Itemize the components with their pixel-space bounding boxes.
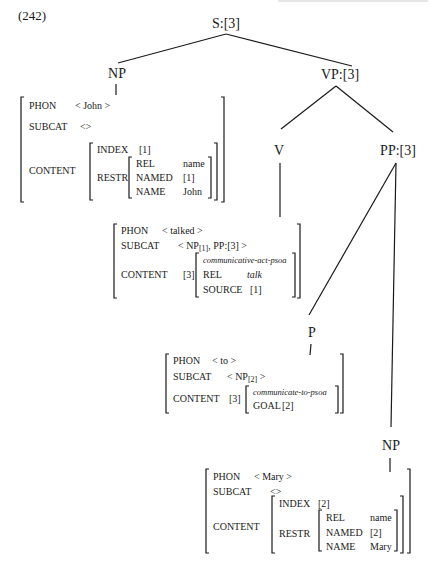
subcat-value: < NP[1], PP:[3] > bbox=[178, 240, 247, 255]
content-label: CONTENT bbox=[173, 393, 220, 405]
subcat-label: SUBCAT bbox=[173, 371, 211, 383]
rel-value: talk bbox=[247, 269, 262, 281]
subcat-value: <> bbox=[80, 121, 91, 133]
named-value: [2] bbox=[370, 527, 382, 539]
named-label: NAMED bbox=[326, 527, 363, 539]
content-tag: [3] bbox=[183, 269, 195, 281]
subcat-value: <> bbox=[270, 486, 281, 498]
content-label: CONTENT bbox=[29, 165, 76, 177]
content-label: CONTENT bbox=[213, 521, 260, 533]
node-object-np: NP bbox=[382, 438, 400, 454]
name-label: NAME bbox=[136, 186, 165, 198]
subcat-value: < NP[2] > bbox=[227, 371, 265, 386]
named-label: NAMED bbox=[136, 172, 173, 184]
subcat-label: SUBCAT bbox=[121, 240, 159, 252]
phon-label: PHON bbox=[173, 355, 200, 367]
subcat-rest: , PP:[3] > bbox=[208, 240, 247, 251]
psoa-type: communicative-act-psoa bbox=[203, 254, 287, 266]
source-value: [1] bbox=[250, 284, 262, 296]
subcat-open: < NP bbox=[178, 240, 199, 251]
name-value: Mary bbox=[370, 541, 392, 553]
node-subject-np: NP bbox=[108, 66, 126, 82]
phon-value: < Mary > bbox=[254, 471, 292, 483]
goal-value: [2] bbox=[282, 400, 294, 412]
node-pp: PP:[3] bbox=[380, 143, 416, 159]
goal-label: GOAL bbox=[253, 400, 281, 412]
subcat-open: < NP bbox=[227, 371, 248, 382]
subcat-index: [2] bbox=[248, 375, 257, 384]
rel-value: name bbox=[370, 512, 392, 524]
phon-label: PHON bbox=[121, 225, 148, 237]
restr-label: RESTR bbox=[97, 172, 128, 184]
subcat-index: [1] bbox=[199, 244, 208, 253]
node-vp: VP:[3] bbox=[321, 67, 359, 83]
rel-label: REL bbox=[136, 158, 155, 170]
name-label: NAME bbox=[326, 541, 355, 553]
phon-label: PHON bbox=[29, 100, 56, 112]
index-label: INDEX bbox=[279, 498, 310, 510]
rel-value: name bbox=[183, 158, 205, 170]
content-label: CONTENT bbox=[121, 269, 168, 281]
node-p: P bbox=[308, 325, 316, 341]
index-value: [2] bbox=[318, 498, 330, 510]
example-number: (242) bbox=[18, 8, 46, 24]
phon-label: PHON bbox=[213, 471, 240, 483]
subcat-label: SUBCAT bbox=[29, 121, 67, 133]
index-label: INDEX bbox=[97, 144, 128, 156]
source-label: SOURCE bbox=[203, 284, 242, 296]
phon-value: < talked > bbox=[162, 225, 203, 237]
node-v: V bbox=[274, 143, 284, 159]
phon-value: < John > bbox=[75, 100, 110, 112]
named-value: [1] bbox=[183, 172, 195, 184]
rel-label: REL bbox=[326, 512, 345, 524]
content-tag: [3] bbox=[229, 393, 241, 405]
restr-label: RESTR bbox=[279, 528, 310, 540]
rel-label: REL bbox=[203, 269, 222, 281]
index-value: [1] bbox=[139, 144, 151, 156]
node-s: S:[3] bbox=[212, 16, 240, 32]
psoa-type: communicate-to-psoa bbox=[253, 386, 327, 398]
subcat-rest: > bbox=[257, 371, 265, 382]
name-value: John bbox=[183, 186, 202, 198]
subcat-label: SUBCAT bbox=[213, 486, 251, 498]
phon-value: < to > bbox=[212, 355, 236, 367]
